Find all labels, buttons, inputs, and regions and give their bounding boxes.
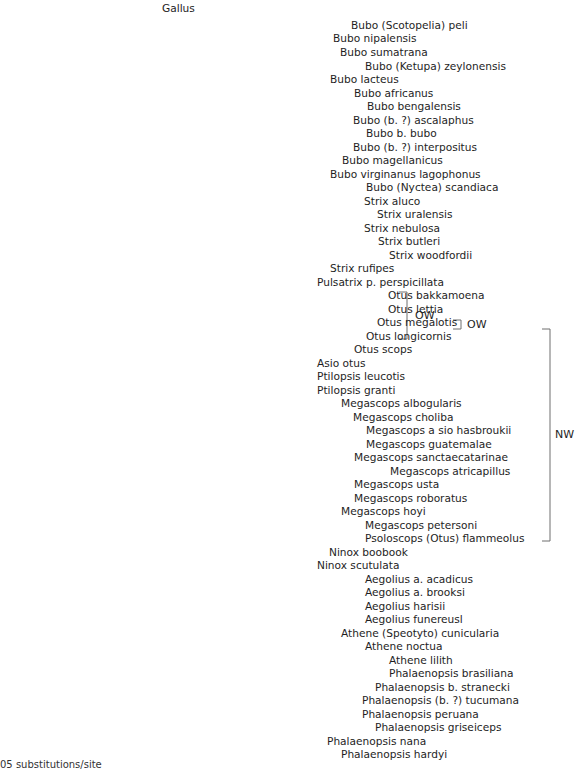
leaf-label: Megascops choliba bbox=[353, 411, 453, 423]
clade-bracket bbox=[542, 329, 550, 541]
leaf-label: Megascops guatemalae bbox=[366, 438, 492, 450]
leaf-label: Bubo magellanicus bbox=[342, 154, 443, 166]
leaf-label: Otus longicornis bbox=[366, 330, 452, 342]
leaf-label: Ptilopsis granti bbox=[317, 384, 395, 396]
leaf-label: Megascops hoyi bbox=[341, 505, 426, 517]
leaf-label: Aegolius a. acadicus bbox=[365, 573, 473, 585]
leaf-label: Bubo lacteus bbox=[330, 73, 399, 85]
leaf-label: Bubo nipalensis bbox=[333, 32, 417, 44]
leaf-label: Athene noctua bbox=[365, 640, 442, 652]
leaf-label: Strix rufipes bbox=[330, 262, 394, 274]
leaf-label: Ninox boobook bbox=[329, 546, 408, 558]
leaf-label: Strix aluco bbox=[364, 195, 420, 207]
scale-caption: 05 substitutions/site bbox=[0, 759, 102, 770]
leaf-label: Ptilopsis leucotis bbox=[317, 370, 405, 382]
leaf-label: Bubo (Ketupa) zeylonensis bbox=[365, 60, 506, 72]
leaf-label: Bubo (b. ?) interpositus bbox=[353, 141, 477, 153]
leaf-label: Phalaenopsis b. stranecki bbox=[375, 681, 510, 693]
leaf-label: Bubo sumatrana bbox=[340, 46, 428, 58]
leaf-label: Asio otus bbox=[317, 357, 365, 369]
leaf-label: Bubo b. bubo bbox=[366, 127, 437, 139]
leaf-label: Strix uralensis bbox=[377, 208, 453, 220]
leaf-label: Megascops usta bbox=[354, 478, 439, 490]
leaf-label: Gallus bbox=[162, 2, 195, 14]
leaf-label: Megascops albogularis bbox=[341, 397, 462, 409]
leaf-label: Aegolius funereusl bbox=[365, 613, 463, 625]
leaf-label: Phalaenopsis hardyi bbox=[341, 748, 447, 760]
leaf-label: Bubo bengalensis bbox=[367, 100, 461, 112]
leaf-label: Phalaenopsis brasiliana bbox=[389, 667, 513, 679]
leaf-label: Phalaenopsis nana bbox=[327, 735, 426, 747]
leaf-label: Athene (Speotyto) cunicularia bbox=[341, 627, 499, 639]
clade-label: OW bbox=[415, 309, 435, 322]
leaf-label: Megascops atricapillus bbox=[390, 465, 510, 477]
leaf-label: Megascops sanctaecatarinae bbox=[354, 451, 508, 463]
leaf-label: Aegolius harisii bbox=[365, 600, 445, 612]
leaf-label: Bubo virginanus lagophonus bbox=[330, 168, 481, 180]
leaf-label: Strix butleri bbox=[378, 235, 440, 247]
leaf-label: Phalaenopsis (b. ?) tucumana bbox=[362, 694, 519, 706]
leaf-label: Phalaenopsis griseiceps bbox=[375, 721, 501, 733]
leaf-label: Megascops a sio hasbroukii bbox=[366, 424, 511, 436]
leaf-label: Athene lilith bbox=[389, 654, 453, 666]
leaf-label: Strix nebulosa bbox=[364, 222, 440, 234]
leaf-label: Psoloscops (Otus) flammeolus bbox=[365, 532, 524, 544]
leaf-label: Otus scops bbox=[354, 343, 412, 355]
leaf-label: Phalaenopsis peruana bbox=[362, 708, 479, 720]
leaf-label: Otus bakkamoena bbox=[388, 289, 484, 301]
clade-label: NW bbox=[555, 428, 574, 441]
leaf-label: Strix woodfordii bbox=[389, 249, 472, 261]
leaf-label: Bubo (Nyctea) scandiaca bbox=[366, 181, 498, 193]
leaf-label: Ninox scutulata bbox=[317, 559, 399, 571]
leaf-label: Bubo africanus bbox=[354, 87, 433, 99]
leaf-label: Pulsatrix p. perspicillata bbox=[317, 276, 444, 288]
clade-label: OW bbox=[467, 318, 487, 331]
leaf-label: Megascops roboratus bbox=[354, 492, 467, 504]
leaf-label: Aegolius a. brooksi bbox=[365, 586, 465, 598]
leaf-label: Bubo (b. ?) ascalaphus bbox=[353, 114, 474, 126]
leaf-label: Megascops petersoni bbox=[365, 519, 477, 531]
leaf-label: Bubo (Scotopelia) peli bbox=[351, 19, 468, 31]
